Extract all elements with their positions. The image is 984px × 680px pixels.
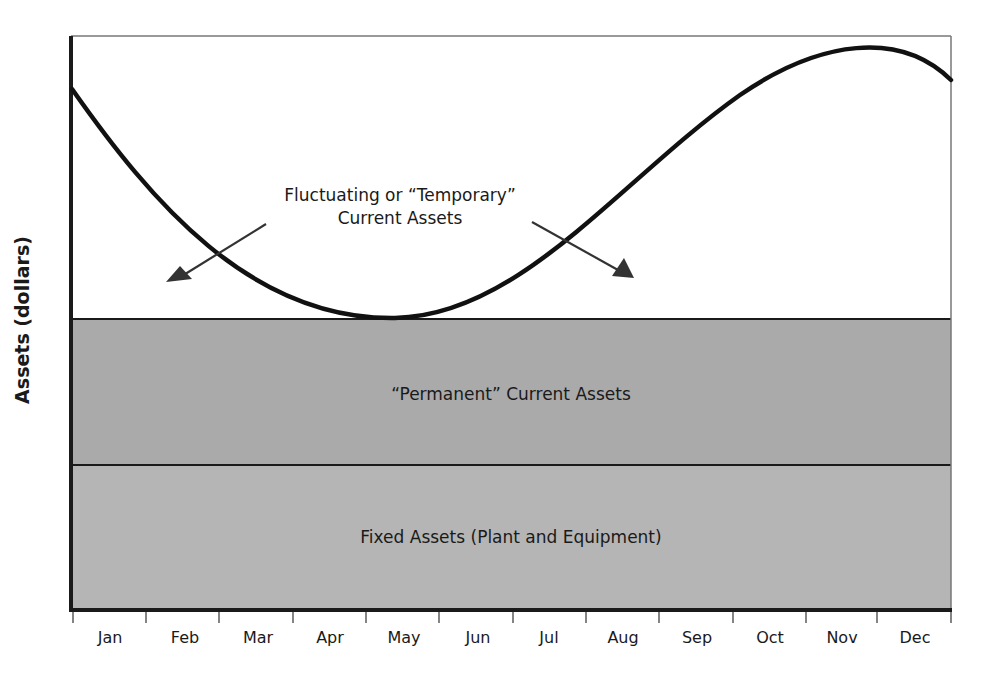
fixed-assets-label: Fixed Assets (Plant and Equipment) <box>311 526 711 549</box>
tick-label-mar: Mar <box>243 628 273 647</box>
temporary-assets-line1: Fluctuating or “Temporary” <box>250 184 550 207</box>
x-axis-ticks <box>73 612 951 623</box>
tick-label-jan: Jan <box>98 628 123 647</box>
temporary-assets-annotation: Fluctuating or “Temporary” Current Asset… <box>250 184 550 230</box>
y-axis-label: Assets (dollars) <box>11 236 33 404</box>
tick-label-apr: Apr <box>316 628 344 647</box>
arrow-right-icon <box>532 222 634 278</box>
tick-label-aug: Aug <box>607 628 638 647</box>
tick-label-jul: Jul <box>539 628 558 647</box>
tick-label-may: May <box>387 628 420 647</box>
tick-label-feb: Feb <box>171 628 199 647</box>
tick-label-nov: Nov <box>826 628 857 647</box>
tick-label-jun: Jun <box>466 628 491 647</box>
chart-canvas <box>0 0 984 680</box>
permanent-assets-label: “Permanent” Current Assets <box>311 383 711 406</box>
total-assets-curve <box>72 48 951 318</box>
tick-label-oct: Oct <box>756 628 784 647</box>
tick-label-sep: Sep <box>682 628 712 647</box>
temporary-assets-line2: Current Assets <box>250 207 550 230</box>
tick-label-dec: Dec <box>900 628 931 647</box>
